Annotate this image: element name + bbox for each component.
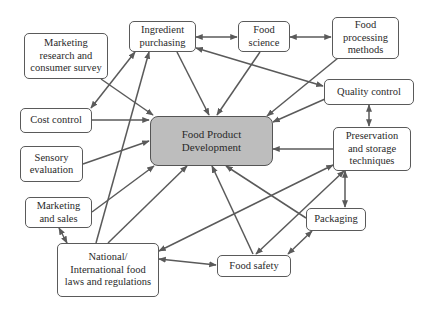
node-food-processing-methods: Food processing methods (332, 17, 399, 59)
node-packaging: Packaging (306, 208, 366, 231)
node-food-safety: Food safety (217, 255, 291, 277)
node-sensory-evaluation: Sensory evaluation (20, 146, 83, 182)
node-food-science: Food science (238, 21, 290, 52)
node-quality-control: Quality control (324, 79, 414, 105)
node-marketing-sales: Marketing and sales (25, 197, 92, 228)
node-cost-control: Cost control (20, 108, 92, 133)
node-preservation-storage: Preservation and storage techniques (333, 127, 411, 171)
node-food-product-development: Food Product Development (150, 116, 273, 166)
food-product-development-diagram: Food Product Development Ingredient purc… (0, 0, 434, 313)
node-marketing-research: Marketing research and consumer survey (24, 33, 108, 79)
node-ingredient-purchasing: Ingredient purchasing (129, 21, 196, 52)
node-food-laws: National/ International food laws and re… (57, 243, 159, 297)
